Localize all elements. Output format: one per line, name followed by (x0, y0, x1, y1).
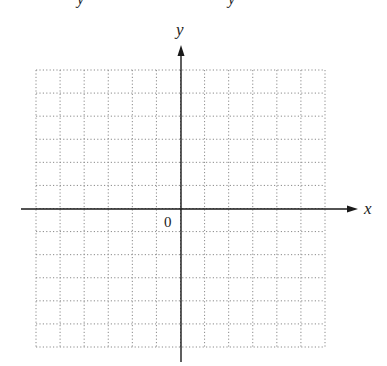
cutoff-glyph-left: y (75, 0, 85, 8)
x-axis-arrow-icon (347, 206, 358, 213)
y-axis-arrow-icon (178, 45, 185, 56)
origin-label: 0 (164, 214, 172, 230)
y-axis-label: y (174, 20, 184, 39)
x-axis-label: x (363, 199, 372, 218)
cutoff-glyph-right: y (226, 0, 236, 8)
coordinate-plane: y y x y 0 (0, 0, 387, 366)
